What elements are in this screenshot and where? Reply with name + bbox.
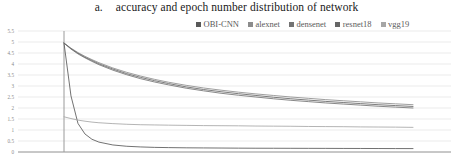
y-axis-tick-label: 4.5: [8, 50, 15, 56]
plot-area: 5.554.543.532.521.510.50: [0, 28, 453, 160]
figure-label: a.: [95, 1, 103, 13]
chart-figure: a. accuracy and epoch number distributio…: [0, 0, 453, 160]
y-axis-tick-label: 1.5: [8, 116, 15, 122]
legend-swatch-icon: [196, 22, 201, 27]
y-axis-tick-label: 0: [11, 149, 14, 155]
y-axis-tick-label: 1: [11, 127, 14, 133]
y-axis-tick-label: 0.5: [8, 138, 15, 144]
chart-canvas: 5.554.543.532.521.510.50: [0, 28, 453, 160]
data-series-group: [64, 43, 413, 148]
figure-title: a. accuracy and epoch number distributio…: [0, 1, 453, 13]
legend-swatch-icon: [289, 22, 294, 27]
y-axis-tick-label: 3.5: [8, 72, 15, 78]
y-axis-tick-label: 2.5: [8, 94, 15, 100]
legend-swatch-icon: [381, 22, 386, 27]
series-line-obi-cnn: [64, 43, 413, 148]
y-axis-tick-label: 2: [11, 105, 14, 111]
figure-title-text: accuracy and epoch number distribution o…: [116, 1, 359, 13]
y-axis-tick-label: 4: [11, 61, 14, 67]
y-axis-tick-label: 3: [11, 83, 14, 89]
series-line-vgg19: [64, 117, 413, 128]
y-axis-tick-label: 5: [11, 39, 14, 45]
y-axis-tick-label: 5.5: [8, 28, 15, 34]
y-axis-tick-labels: 5.554.543.532.521.510.50: [8, 28, 15, 155]
legend-swatch-icon: [335, 22, 340, 27]
legend-swatch-icon: [248, 22, 253, 27]
